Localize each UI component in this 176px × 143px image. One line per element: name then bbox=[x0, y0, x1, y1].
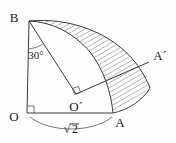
label-radicand: 2 bbox=[72, 122, 78, 136]
label-angle-30: 30° bbox=[28, 49, 43, 61]
label-point-A-prime: A´ bbox=[153, 48, 167, 63]
figure-container: B O A O´ A´ 30° √ 2 bbox=[0, 0, 176, 143]
label-radical-symbol: √ bbox=[64, 122, 71, 136]
label-point-B: B bbox=[10, 10, 19, 25]
label-point-O: O bbox=[9, 109, 18, 124]
right-angle-marker-O bbox=[27, 106, 34, 113]
geometry-diagram: B O A O´ A´ 30° √ 2 bbox=[0, 0, 176, 143]
hatch-fill-area bbox=[29, 20, 150, 113]
segment-O-B bbox=[27, 21, 29, 113]
hatched-region bbox=[29, 20, 150, 113]
label-length-sqrt2: √ 2 bbox=[64, 122, 79, 136]
label-point-O-prime: O´ bbox=[69, 99, 83, 114]
measure-arc-OA bbox=[30, 117, 112, 129]
label-point-A: A bbox=[115, 115, 125, 130]
